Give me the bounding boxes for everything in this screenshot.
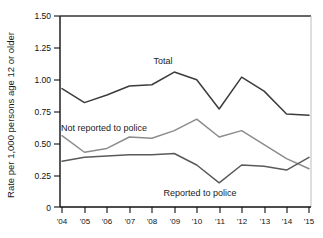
x-tick-label: '04 xyxy=(57,217,68,226)
line-chart: Rate per 1,000 persons age 12 or older 1… xyxy=(0,0,323,238)
x-tick-label: '05 xyxy=(80,217,91,226)
chart-canvas: Rate per 1,000 persons age 12 or older 1… xyxy=(0,0,323,238)
x-tick-label: '12 xyxy=(237,217,248,226)
y-tick-label: 1.50 xyxy=(34,11,51,21)
series-annotation-reported: Reported to police xyxy=(163,188,236,198)
y-tick-label: 0.25 xyxy=(34,171,51,181)
x-tick-label: '15 xyxy=(304,217,315,226)
x-tick-label: '07 xyxy=(125,217,136,226)
series-annotation-not-reported: Not reported to police xyxy=(61,123,147,133)
x-tick-label: '09 xyxy=(170,217,181,226)
y-tick-label: 0.50 xyxy=(34,139,51,149)
y-tick-label: 0 xyxy=(46,203,51,213)
y-axis-label: Rate per 1,000 persons age 12 or older xyxy=(5,32,16,198)
y-tick-label: 1.00 xyxy=(34,75,51,85)
x-tick-label: '11 xyxy=(215,217,225,226)
x-tick-label: '06 xyxy=(102,217,113,226)
x-tick-label: '14 xyxy=(282,217,293,226)
y-tick-label: 1.25 xyxy=(34,43,51,53)
x-tick-label: '13 xyxy=(260,217,271,226)
y-tick-label: 0.75 xyxy=(34,107,51,117)
series-annotation-total: Total xyxy=(153,56,172,66)
x-tick-label: '10 xyxy=(192,217,203,226)
x-tick-label: '08 xyxy=(147,217,158,226)
